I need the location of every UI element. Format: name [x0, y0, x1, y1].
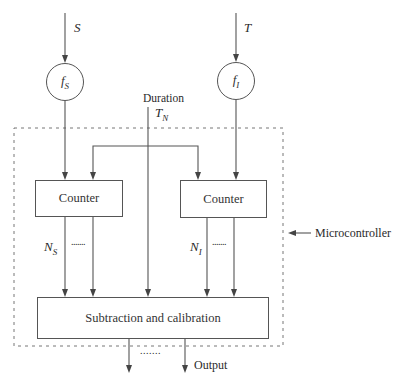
- ni-label: NI: [190, 239, 202, 257]
- output-label: Output: [194, 358, 227, 373]
- s-signal-label: S: [74, 20, 81, 36]
- ns-label: NS: [44, 239, 57, 257]
- tn-subscript: N: [162, 113, 168, 123]
- right-counter-label: Counter: [203, 192, 243, 207]
- t-signal-label: T: [244, 20, 251, 36]
- ns-dots: .......: [71, 236, 85, 247]
- subtraction-calibration-label: Subtraction and calibration: [85, 311, 220, 326]
- microcontroller-label: Microcontroller: [315, 226, 391, 241]
- left-counter-label: Counter: [59, 191, 99, 206]
- ni-symbol: N: [190, 239, 199, 254]
- ns-symbol: N: [44, 239, 53, 254]
- fs-converter: fS: [46, 63, 84, 101]
- tn-label: TN: [155, 105, 168, 123]
- ni-dots: .......: [212, 236, 226, 247]
- output-dots: .......: [140, 345, 161, 356]
- fi-converter: fI: [217, 62, 255, 100]
- subtraction-calibration-block: Subtraction and calibration: [37, 297, 269, 339]
- right-counter: Counter: [180, 180, 267, 218]
- duration-bracket: [93, 146, 198, 172]
- fi-subscript: I: [236, 80, 239, 90]
- left-counter: Counter: [35, 180, 123, 217]
- ns-subscript: S: [53, 247, 58, 257]
- fs-subscript: S: [65, 81, 70, 91]
- ni-subscript: I: [199, 247, 202, 257]
- duration-label: Duration: [143, 92, 184, 104]
